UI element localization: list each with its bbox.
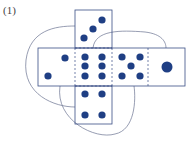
arc-bottom <box>60 86 135 135</box>
face-bottom-pips <box>81 90 105 118</box>
face-right-outer-pips <box>162 62 173 73</box>
face-right-inner-pips <box>118 53 143 79</box>
arc-top-right <box>93 31 166 48</box>
face-top-pips <box>80 16 105 41</box>
face-bottom <box>75 86 112 124</box>
die-net-diagram <box>0 0 194 141</box>
arc-left-top <box>26 26 75 107</box>
face-left-pips <box>44 54 68 79</box>
face-center-pips <box>81 53 105 79</box>
